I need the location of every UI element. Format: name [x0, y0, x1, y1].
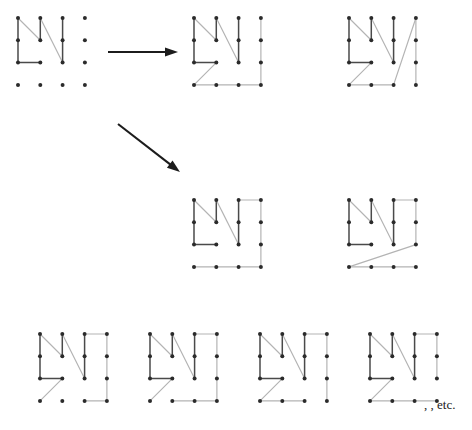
grid-dot — [61, 38, 65, 42]
grid-dot — [170, 354, 174, 358]
grid-dot — [214, 265, 218, 269]
panel-mid-b — [345, 196, 420, 271]
grid-dot — [369, 61, 373, 65]
grid-dot — [259, 198, 263, 202]
arrow-diagonal — [106, 112, 192, 184]
grid-dot — [390, 354, 394, 358]
grid-dot — [347, 243, 351, 247]
grid-dot — [38, 332, 42, 336]
panel-bot-a — [36, 330, 111, 405]
grid-dot — [83, 354, 87, 358]
grid-dot — [215, 354, 219, 358]
grid-dot — [16, 38, 20, 42]
grid-dot — [258, 377, 262, 381]
grid-dot — [215, 332, 219, 336]
grid-dot — [368, 377, 372, 381]
grid-dot — [303, 377, 307, 381]
grid-dot — [347, 220, 351, 224]
grid-dot — [60, 377, 64, 381]
grid-dot — [38, 377, 42, 381]
grid-dot — [214, 83, 218, 87]
grid-dot — [325, 377, 329, 381]
grid-dot — [280, 332, 284, 336]
grid-dot — [193, 354, 197, 358]
grid-dot — [413, 399, 417, 403]
graph-edge — [394, 18, 416, 85]
grid-dot — [259, 243, 263, 247]
grid-dot — [390, 332, 394, 336]
grid-dot — [192, 265, 196, 269]
grid-dot — [214, 61, 218, 65]
grid-dot — [413, 354, 417, 358]
grid-dot — [392, 243, 396, 247]
panel-mid-a — [190, 196, 265, 271]
grid-dot — [237, 220, 241, 224]
grid-dot — [259, 16, 263, 20]
grid-dot — [369, 83, 373, 87]
grid-dot — [38, 83, 42, 87]
arrow-right — [96, 40, 190, 64]
grid-dot — [83, 38, 87, 42]
graph-edge — [18, 18, 40, 40]
graph-edge — [216, 200, 238, 245]
grid-dot — [83, 16, 87, 20]
grid-dot — [38, 38, 42, 42]
graph-edge — [150, 334, 172, 356]
graph-edge — [370, 334, 392, 356]
grid-dot — [347, 198, 351, 202]
grid-dot — [413, 377, 417, 381]
grid-dot — [38, 61, 42, 65]
grid-dot — [193, 399, 197, 403]
grid-dot — [148, 377, 152, 381]
grid-dot — [280, 399, 284, 403]
grid-dot — [347, 265, 351, 269]
grid-dot — [303, 399, 307, 403]
grid-dot — [414, 16, 418, 20]
grid-dot — [83, 332, 87, 336]
grid-dot — [61, 61, 65, 65]
grid-dot — [369, 38, 373, 42]
graph-edge — [150, 379, 172, 401]
grid-dot — [303, 332, 307, 336]
grid-dot — [392, 220, 396, 224]
grid-dot — [369, 198, 373, 202]
grid-dot — [435, 332, 439, 336]
panel-top-b — [190, 14, 265, 89]
grid-dot — [237, 83, 241, 87]
panel-start — [14, 14, 89, 89]
grid-dot — [392, 16, 396, 20]
grid-dot — [61, 16, 65, 20]
grid-dot — [61, 83, 65, 87]
grid-dot — [237, 198, 241, 202]
grid-dot — [413, 332, 417, 336]
graph-edge — [194, 200, 216, 222]
grid-dot — [237, 243, 241, 247]
grid-dot — [325, 354, 329, 358]
grid-dot — [148, 332, 152, 336]
grid-dot — [414, 265, 418, 269]
grid-dot — [392, 265, 396, 269]
grid-dot — [347, 16, 351, 20]
grid-dot — [192, 198, 196, 202]
grid-dot — [392, 198, 396, 202]
grid-dot — [192, 38, 196, 42]
arrow-head — [165, 47, 178, 56]
grid-dot — [148, 399, 152, 403]
grid-dot — [369, 243, 373, 247]
grid-dot — [280, 377, 284, 381]
grid-dot — [38, 16, 42, 20]
grid-dot — [214, 220, 218, 224]
grid-dot — [170, 332, 174, 336]
grid-dot — [414, 38, 418, 42]
grid-dot — [16, 61, 20, 65]
grid-dot — [259, 61, 263, 65]
graph-edge — [194, 18, 216, 40]
grid-dot — [192, 243, 196, 247]
grid-dot — [215, 377, 219, 381]
grid-dot — [259, 220, 263, 224]
grid-dot — [16, 83, 20, 87]
grid-dot — [237, 38, 241, 42]
grid-dot — [214, 198, 218, 202]
grid-dot — [148, 354, 152, 358]
grid-dot — [60, 332, 64, 336]
